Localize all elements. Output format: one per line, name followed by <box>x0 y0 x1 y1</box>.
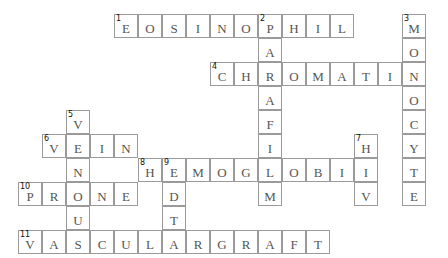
cell-letter: A <box>259 94 281 108</box>
crossword-cell[interactable]: F <box>258 110 282 134</box>
crossword-cell[interactable]: O <box>402 86 426 110</box>
cell-letter: I <box>259 142 281 156</box>
crossword-cell[interactable]: 2P <box>258 14 282 38</box>
cell-letter: U <box>67 214 89 228</box>
crossword-cell[interactable]: N <box>90 182 114 206</box>
crossword-cell[interactable]: O <box>282 62 306 86</box>
crossword-cell[interactable]: O <box>66 182 90 206</box>
crossword-cell[interactable]: M <box>306 62 330 86</box>
crossword-cell[interactable]: N <box>66 158 90 182</box>
crossword-cell[interactable]: A <box>258 230 282 254</box>
crossword-cell[interactable]: R <box>186 230 210 254</box>
crossword-cell[interactable]: O <box>210 158 234 182</box>
crossword-cell[interactable]: I <box>258 134 282 158</box>
crossword-cell[interactable]: A <box>162 230 186 254</box>
cell-letter: I <box>355 166 377 180</box>
crossword-cell[interactable]: U <box>66 206 90 230</box>
crossword-cell[interactable]: 7H <box>354 134 378 158</box>
crossword-cell[interactable]: T <box>162 206 186 230</box>
crossword-cell[interactable]: I <box>378 62 402 86</box>
crossword-cell[interactable]: M <box>258 182 282 206</box>
crossword-cell[interactable]: N <box>210 14 234 38</box>
cell-letter: I <box>187 22 209 36</box>
cell-letter: F <box>283 238 305 252</box>
crossword-cell[interactable]: O <box>402 38 426 62</box>
crossword-cell[interactable]: E <box>114 182 138 206</box>
crossword-cell[interactable]: N <box>402 62 426 86</box>
cell-letter: R <box>43 190 65 204</box>
crossword-cell[interactable]: 11V <box>18 230 42 254</box>
crossword-cell[interactable]: A <box>258 38 282 62</box>
crossword-cell[interactable]: 1E <box>114 14 138 38</box>
crossword-cell[interactable]: R <box>234 230 258 254</box>
crossword-cell[interactable]: A <box>42 230 66 254</box>
cell-letter: S <box>163 22 185 36</box>
crossword-cell[interactable]: I <box>186 14 210 38</box>
cell-letter: Y <box>403 142 425 156</box>
crossword-cell[interactable]: O <box>138 14 162 38</box>
crossword-cell[interactable]: I <box>330 158 354 182</box>
cell-letter: E <box>163 166 185 180</box>
cell-letter: O <box>283 166 305 180</box>
crossword-cell[interactable]: 8H <box>138 158 162 182</box>
crossword-cell[interactable]: 3M <box>402 14 426 38</box>
cell-letter: N <box>403 70 425 84</box>
cell-letter: O <box>211 166 233 180</box>
crossword-cell[interactable]: Y <box>402 134 426 158</box>
crossword-cell[interactable]: 4C <box>210 62 234 86</box>
crossword-cell[interactable]: H <box>234 62 258 86</box>
crossword-cell[interactable]: 9E <box>162 158 186 182</box>
crossword-cell[interactable]: S <box>66 230 90 254</box>
cell-letter: H <box>283 22 305 36</box>
crossword-cell[interactable]: T <box>402 158 426 182</box>
cell-letter: M <box>187 166 209 180</box>
crossword-cell[interactable]: L <box>258 158 282 182</box>
cell-letter: O <box>235 22 257 36</box>
cell-letter: C <box>211 70 233 84</box>
cell-letter: V <box>19 238 41 252</box>
crossword-cell[interactable]: N <box>114 134 138 158</box>
crossword-cell[interactable]: H <box>282 14 306 38</box>
crossword-cell[interactable]: R <box>42 182 66 206</box>
crossword-cell[interactable]: T <box>354 62 378 86</box>
crossword-cell[interactable]: O <box>282 158 306 182</box>
cell-letter: N <box>115 142 137 156</box>
cell-letter: C <box>403 118 425 132</box>
cell-letter: R <box>187 238 209 252</box>
cell-letter: R <box>259 70 281 84</box>
crossword-cell[interactable]: G <box>234 158 258 182</box>
cell-letter: H <box>355 142 377 156</box>
cell-letter: B <box>307 166 329 180</box>
crossword-cell[interactable]: B <box>306 158 330 182</box>
crossword-cell[interactable]: C <box>90 230 114 254</box>
crossword-cell[interactable]: L <box>138 230 162 254</box>
crossword-cell[interactable]: U <box>114 230 138 254</box>
crossword-cell[interactable]: R <box>258 62 282 86</box>
cell-letter: A <box>331 70 353 84</box>
crossword-cell[interactable]: C <box>402 110 426 134</box>
crossword-cell[interactable]: 5V <box>66 110 90 134</box>
crossword-cell[interactable]: I <box>354 158 378 182</box>
cell-letter: A <box>43 238 65 252</box>
crossword-cell[interactable]: V <box>354 182 378 206</box>
crossword-cell[interactable]: I <box>306 14 330 38</box>
crossword-cell[interactable]: 6V <box>42 134 66 158</box>
crossword-cell[interactable]: F <box>282 230 306 254</box>
crossword-cell[interactable]: E <box>66 134 90 158</box>
crossword-cell[interactable]: 10P <box>18 182 42 206</box>
cell-letter: H <box>235 70 257 84</box>
cell-letter: M <box>403 22 425 36</box>
crossword-cell[interactable]: G <box>210 230 234 254</box>
crossword-cell[interactable]: I <box>90 134 114 158</box>
crossword-cell[interactable]: A <box>258 86 282 110</box>
crossword-cell[interactable]: S <box>162 14 186 38</box>
cell-letter: L <box>331 22 353 36</box>
crossword-cell[interactable]: D <box>162 182 186 206</box>
crossword-cell[interactable]: O <box>234 14 258 38</box>
crossword-cell[interactable]: T <box>306 230 330 254</box>
crossword-cell[interactable]: L <box>330 14 354 38</box>
cell-letter: R <box>235 238 257 252</box>
crossword-cell[interactable]: M <box>186 158 210 182</box>
crossword-cell[interactable]: A <box>330 62 354 86</box>
crossword-cell[interactable]: E <box>402 182 426 206</box>
